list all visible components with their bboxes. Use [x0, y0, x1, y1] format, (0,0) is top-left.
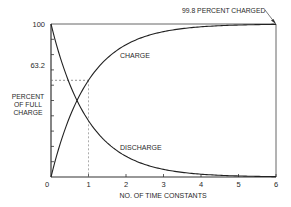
charge-curve	[51, 24, 276, 177]
x-tick-label-3: 3	[161, 180, 165, 189]
y-axis-title-line1: PERCENT	[12, 93, 44, 100]
x-tick-label-4: 4	[199, 180, 203, 189]
x-tick-label-6: 6	[274, 180, 278, 189]
rc-charge-discharge-chart: 100 63.2 PERCENT OF FULL CHARGE CHARGE D…	[0, 0, 291, 207]
callout-99-8-percent: 99.8 PERCENT CHARGED	[182, 7, 265, 14]
x-axis-title: NO. OF TIME CONSTANTS	[119, 192, 207, 199]
x-tick-label-1: 1	[86, 180, 90, 189]
y-axis-title-line3: CHARGE	[13, 109, 43, 116]
charge-series-label: CHARGE	[120, 52, 150, 59]
callout-arrowhead-icon	[271, 19, 276, 24]
y-axis-title-line2: OF FULL	[14, 101, 42, 108]
x-tick-label-2: 2	[124, 180, 128, 189]
x-tick-label-5: 5	[236, 180, 240, 189]
y-tick-label-63-2: 63.2	[30, 61, 45, 70]
discharge-series-label: DISCHARGE	[120, 144, 162, 151]
chart-container: 100 63.2 PERCENT OF FULL CHARGE CHARGE D…	[0, 0, 291, 207]
discharge-curve	[51, 24, 276, 177]
y-tick-label-100: 100	[32, 20, 45, 29]
x-tick-label-0: 0	[45, 180, 49, 189]
